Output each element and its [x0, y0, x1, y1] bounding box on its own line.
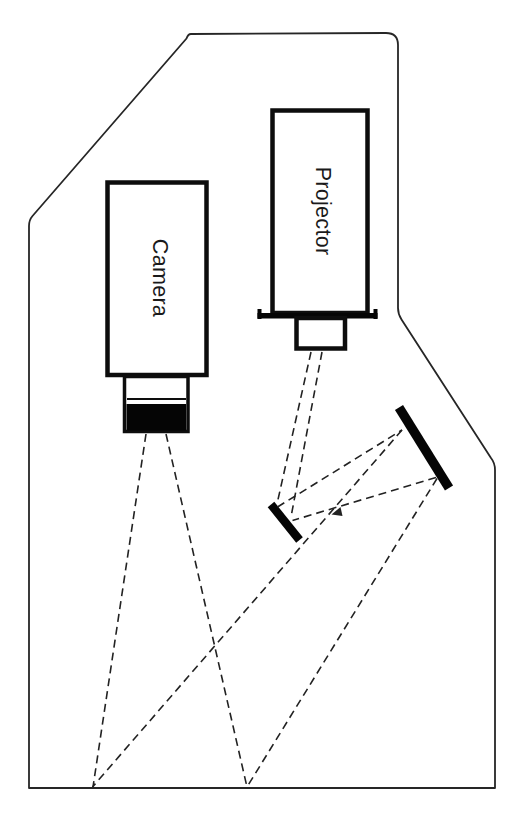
projector-beam-ray-left	[277, 352, 311, 504]
camera: Camera	[108, 183, 207, 432]
camera-lens-black-section	[127, 404, 187, 431]
diagram-canvas: Camera Projector	[0, 0, 527, 834]
schematic-figure: Camera Projector	[0, 0, 527, 834]
projector-label: Projector	[311, 167, 335, 256]
small-fold-mirror	[271, 505, 300, 541]
projector-beam-ray-right	[291, 352, 322, 517]
enclosure-outline	[29, 33, 495, 788]
projector-lens	[297, 318, 346, 349]
projector: Projector	[258, 111, 378, 349]
large-fold-mirror	[399, 408, 449, 489]
large-mirror-to-floor-ray-left	[93, 430, 403, 787]
camera-view-ray-left	[93, 434, 146, 787]
camera-label: Camera	[148, 239, 172, 317]
large-mirror-to-floor-ray-right	[247, 479, 437, 788]
small-to-large-mirror-ray-upper	[278, 430, 403, 507]
camera-view-ray-right	[166, 434, 247, 787]
